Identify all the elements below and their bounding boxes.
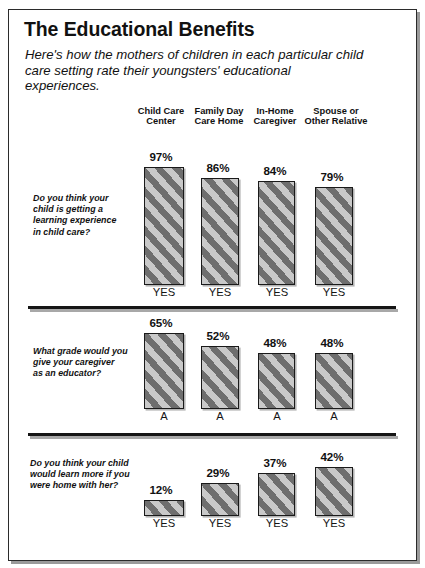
bar-category-label: A [133, 410, 195, 422]
column-header-line-1: Child Care [130, 106, 192, 116]
section-divider-1 [28, 306, 396, 309]
bar-value-label: 79% [304, 170, 360, 183]
column-header-child-care-center: Child Care Center [130, 106, 192, 127]
bar [201, 178, 239, 285]
column-header-line-2: Center [130, 116, 192, 126]
bar [258, 353, 295, 409]
bar-category-label: YES [133, 286, 195, 298]
bar [144, 333, 184, 409]
question-text-1: Do you think your child is getting a lea… [33, 193, 137, 238]
column-header-in-home-caregiver: In-Home Caregiver [245, 106, 305, 127]
column-header-line-1: Spouse or [300, 106, 372, 116]
bar-category-label: YES [189, 517, 251, 529]
question-line: in child care? [33, 227, 137, 238]
bar-value-label: 65% [133, 316, 189, 329]
bar-category-label: YES [189, 286, 251, 298]
bar-value-label: 52% [190, 329, 246, 342]
chart-subtitle: Here's how the mothers of children in ea… [25, 47, 365, 94]
bar-category-label: A [246, 410, 308, 422]
question-line: Do you think your [33, 193, 137, 204]
bar-value-label: 42% [304, 450, 360, 463]
bar-category-label: A [303, 410, 365, 422]
question-line: would learn more if you [30, 469, 152, 480]
bar-value-label: 48% [247, 336, 303, 349]
question-line: Do you think your child [30, 458, 152, 469]
bar-category-label: YES [246, 517, 308, 529]
question-line: child is getting a [33, 204, 137, 215]
bar-value-label: 48% [304, 336, 360, 349]
column-header-line-1: Family Day [187, 106, 251, 116]
section-divider-2 [28, 433, 396, 436]
section-divider-shadow-1 [30, 309, 398, 312]
bar-value-label: 97% [133, 150, 189, 163]
column-header-family-day-care-home: Family Day Care Home [187, 106, 251, 127]
bar-value-label: 37% [247, 456, 303, 469]
bar-value-label: 29% [190, 466, 246, 479]
question-line: What grade would you [33, 346, 145, 357]
column-header-spouse-or-other-relative: Spouse or Other Relative [300, 106, 372, 127]
page-title: The Educational Benefits [24, 18, 255, 41]
bar-category-label: YES [303, 286, 365, 298]
bar [315, 467, 353, 516]
column-header-line-2: Caregiver [245, 116, 305, 126]
bar [201, 346, 239, 409]
bar [144, 500, 184, 516]
column-header-line-2: Care Home [187, 116, 251, 126]
question-text-2: What grade would you give your caregiver… [33, 346, 145, 380]
bar [144, 167, 184, 285]
column-header-line-1: In-Home [245, 106, 305, 116]
bar-value-label: 84% [247, 164, 303, 177]
question-line: as an educator? [33, 368, 145, 379]
bar-value-label: 12% [133, 483, 189, 496]
bar-category-label: YES [303, 517, 365, 529]
bar-value-label: 86% [190, 161, 246, 174]
bar [201, 483, 239, 516]
bar [258, 181, 295, 285]
section-divider-shadow-2 [30, 436, 398, 439]
question-line: give your caregiver [33, 357, 145, 368]
chart-page: The Educational Benefits Here's how the … [0, 0, 425, 568]
bar [315, 353, 353, 409]
chart-inner: The Educational Benefits Here's how the … [8, 9, 417, 561]
bar [315, 187, 353, 285]
bar-category-label: YES [246, 286, 308, 298]
bar-category-label: YES [133, 517, 195, 529]
column-header-line-2: Other Relative [300, 116, 372, 126]
question-line: learning experience [33, 215, 137, 226]
bar [258, 473, 295, 516]
bar-category-label: A [189, 410, 251, 422]
